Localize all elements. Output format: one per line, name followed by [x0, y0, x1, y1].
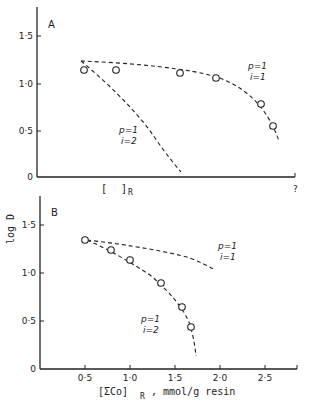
- panel-a-xlabel-close: ]: [121, 183, 127, 194]
- panel-a-ytick-1-0: 1·0: [19, 79, 34, 89]
- panel-a-annotation-p-i2: p=1: [118, 125, 138, 135]
- figure: 1·5 1·0 0·5 0 A p=1 i=1 p=1 i=2 [ ] R ?: [0, 0, 309, 405]
- panel-b-xtick-1-5: 1·5: [168, 373, 182, 383]
- panel-b-xlabel-sub: R: [140, 392, 145, 401]
- panel-b-xtick-2-0: 2·0: [213, 373, 228, 383]
- panel-b-xtick-2-5: 2·5: [258, 373, 272, 383]
- panel-a-xlabel-open: [: [101, 183, 107, 194]
- panel-b-curve-i2: [87, 240, 196, 356]
- panel-a-xlabel-sub: R: [128, 188, 133, 197]
- panel-a-annotation-p-i1: p=1: [247, 61, 267, 71]
- panel-b-xtick-0-5: 0·5: [78, 373, 92, 383]
- panel-a: 1·5 1·0 0·5 0 A p=1 i=1 p=1 i=2 [ ] R ?: [19, 7, 298, 197]
- panel-a-ytick-1-5: 1·5: [19, 31, 33, 41]
- panel-b-ytick-1-0: 1·0: [22, 268, 37, 278]
- panel-a-data-points: [81, 67, 277, 130]
- panel-b-annotation-p-i1: p=1: [217, 241, 237, 251]
- panel-a-ytick-0-5: 0·5: [19, 126, 33, 136]
- panel-a-label: A: [48, 19, 55, 30]
- panel-a-annotation-i2: i=2: [121, 136, 137, 146]
- panel-b-xlabel-main: [ΣCo]: [98, 386, 128, 397]
- panel-b-xtick-1-0: 1·0: [123, 373, 138, 383]
- panel-a-annotation-i1: i=1: [250, 72, 266, 82]
- panel-a-ytick-0: 0: [27, 172, 33, 182]
- panel-b-ytick-1-5: 1·5: [22, 220, 36, 230]
- panel-a-xlabel-right: ?: [293, 184, 298, 194]
- y-axis-label: log D: [5, 214, 16, 244]
- panel-a-curve-i2: [81, 61, 181, 172]
- panel-b-label: B: [51, 207, 58, 218]
- panel-b-data-points: [82, 237, 195, 331]
- panel-b-annotation-i1: i=1: [220, 252, 236, 262]
- panel-b-annotation-i2: i=2: [143, 325, 159, 335]
- panel-b-curve-i1: [87, 240, 215, 270]
- panel-b-ytick-0: 0: [30, 364, 36, 374]
- panel-b-ytick-0-5: 0·5: [22, 316, 36, 326]
- panel-b-xlabel-rest: , mmol/g resin: [151, 386, 235, 397]
- panel-b: 1·5 1·0 0·5 0 0·5 1·0 1·5 2·0 2·5 B p=1 …: [22, 196, 297, 401]
- panel-b-annotation-p-i2: p=1: [140, 314, 160, 324]
